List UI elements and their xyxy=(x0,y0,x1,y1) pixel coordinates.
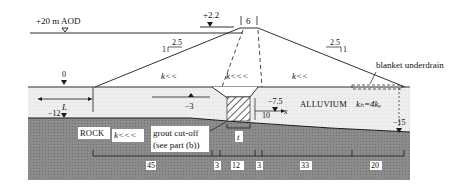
alluvium-label: ALLUVIUM xyxy=(300,99,347,109)
downstream-slope-h: 2.5 xyxy=(330,38,340,47)
grout-cutoff-label: grout cut-off xyxy=(153,128,199,138)
length-label: L xyxy=(61,102,67,112)
upstream-slope-v: 1 xyxy=(162,45,166,54)
grout-cutoff-note: (see part (b)) xyxy=(153,140,199,150)
dimension-33: 33 xyxy=(301,161,309,170)
tailwater-label: +2.2 xyxy=(203,10,219,20)
rock-label: ROCK xyxy=(80,128,105,138)
blanket-underdrain-label: blanket underdrain xyxy=(376,60,444,70)
offset-label: 10 xyxy=(262,111,270,120)
base-downstream-label: −15 xyxy=(393,118,406,127)
base-upstream-label: −12 xyxy=(48,109,61,118)
dimension-20: 20 xyxy=(371,161,379,170)
piezometer-label: −3 xyxy=(185,102,194,111)
dimension-3b: 3 xyxy=(257,161,261,170)
dimension-45: 45 xyxy=(147,161,155,170)
ground-level-label: 0 xyxy=(62,70,66,79)
dimension-12: 12 xyxy=(232,161,240,170)
reservoir-level-label: +20 m AOD xyxy=(36,16,81,26)
upstream-shell-k: k<< xyxy=(161,71,177,81)
crest-width-label: 6 xyxy=(246,16,251,26)
diagram-labels: +20 m AOD +2.2 6 2.5 1 2.5 1 blanket und… xyxy=(0,0,462,189)
dimension-3a: 3 xyxy=(215,161,219,170)
downstream-slope-v: 1 xyxy=(343,45,347,54)
cutoff-thickness-label: t xyxy=(237,132,240,142)
alluvium-k-label: kₕ=4kᵥ xyxy=(356,99,382,109)
rock-k-label: k<<< xyxy=(114,130,136,140)
core-k: k<<< xyxy=(226,71,248,81)
upstream-slope-h: 2.5 xyxy=(172,38,182,47)
x-label: x xyxy=(283,107,288,116)
downstream-shell-k: k<< xyxy=(292,71,308,81)
cutoff-base-label: −7.5 xyxy=(268,97,283,106)
